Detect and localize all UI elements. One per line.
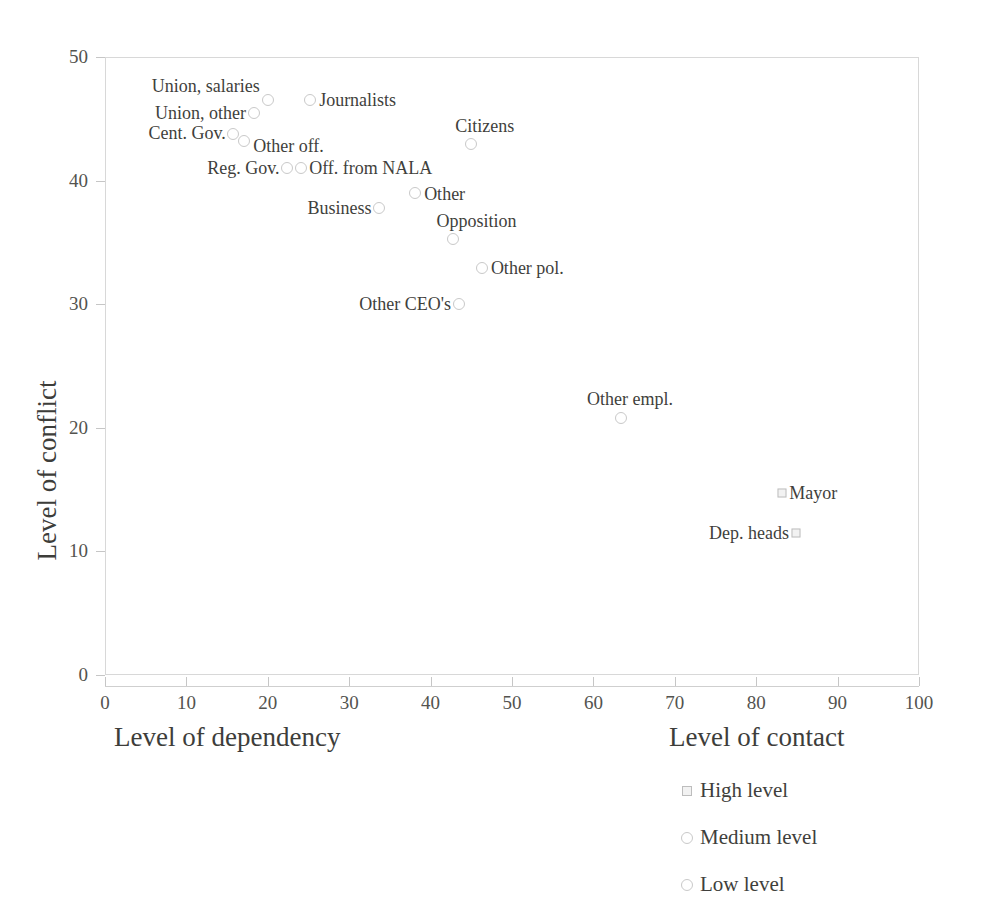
- y-tick-label: 0: [79, 664, 89, 686]
- legend-item-label: Medium level: [700, 825, 817, 850]
- legend-title: Level of contact: [669, 722, 969, 753]
- data-point-label: Cent. Gov.: [148, 122, 225, 143]
- data-point-marker: [778, 489, 787, 498]
- data-point-label: Business: [307, 197, 371, 218]
- legend-marker-glyph: [681, 879, 693, 891]
- legend-item[interactable]: High level: [669, 767, 969, 814]
- x-tick-label: 100: [905, 692, 934, 714]
- x-tick-label: 10: [177, 692, 196, 714]
- data-point-label: Opposition: [436, 210, 516, 231]
- x-tick-label: 40: [421, 692, 440, 714]
- y-tick: [96, 57, 105, 58]
- x-tick: [919, 677, 920, 686]
- data-point-marker: [281, 162, 293, 174]
- y-tick-label: 20: [69, 417, 88, 439]
- legend-item[interactable]: Medium level: [669, 814, 969, 861]
- x-tick: [512, 677, 513, 686]
- y-tick: [96, 428, 105, 429]
- x-tick-label: 80: [747, 692, 766, 714]
- x-tick: [268, 677, 269, 686]
- data-point-label: Off. from NALA: [309, 158, 432, 179]
- data-point-marker: [615, 412, 627, 424]
- x-tick: [838, 677, 839, 686]
- data-point-marker: [248, 107, 260, 119]
- data-point-marker: [238, 135, 250, 147]
- x-tick-label: 30: [340, 692, 359, 714]
- data-point-marker: [373, 202, 385, 214]
- x-tick: [756, 677, 757, 686]
- data-point-label: Dep. heads: [709, 522, 789, 543]
- x-tick-label: 0: [100, 692, 110, 714]
- legend-item[interactable]: Low level: [669, 861, 969, 908]
- y-tick: [96, 181, 105, 182]
- data-point-marker: [409, 187, 421, 199]
- legend-marker-glyph: [681, 832, 693, 844]
- x-tick-label: 70: [665, 692, 684, 714]
- legend-item-label: High level: [700, 778, 788, 803]
- data-point-label: Mayor: [789, 483, 837, 504]
- y-tick-label: 30: [69, 293, 88, 315]
- x-tick-label: 50: [503, 692, 522, 714]
- data-point-label: Other CEO's: [359, 294, 451, 315]
- x-axis-title: Level of dependency: [114, 722, 340, 753]
- x-tick-label: 20: [258, 692, 277, 714]
- chart-legend: Level of contact High levelMedium levelL…: [669, 722, 969, 908]
- data-point-marker: [227, 128, 239, 140]
- x-tick: [349, 677, 350, 686]
- y-tick: [96, 675, 105, 676]
- data-point-marker: [465, 138, 477, 150]
- legend-marker-icon: [674, 781, 700, 801]
- y-tick-label: 10: [69, 540, 88, 562]
- data-point-marker: [476, 262, 488, 274]
- x-tick-label: 90: [828, 692, 847, 714]
- data-point-label: Other empl.: [587, 388, 673, 409]
- data-point-marker: [262, 94, 274, 106]
- legend-item-label: Low level: [700, 872, 785, 897]
- x-tick-label: 60: [584, 692, 603, 714]
- x-tick: [593, 677, 594, 686]
- data-point-marker: [447, 233, 459, 245]
- data-point-label: Union, salaries: [152, 76, 260, 97]
- legend-marker-glyph: [682, 786, 692, 796]
- legend-entries: High levelMedium levelLow level: [669, 767, 969, 908]
- plot-area: [105, 57, 919, 675]
- data-point-label: Other off.: [253, 136, 324, 157]
- y-tick: [96, 551, 105, 552]
- data-point-marker: [453, 298, 465, 310]
- data-point-marker: [304, 94, 316, 106]
- x-tick: [431, 677, 432, 686]
- data-point-marker: [792, 528, 801, 537]
- data-point-label: Reg. Gov.: [207, 158, 279, 179]
- x-axis-line: [105, 686, 919, 687]
- data-point-label: Citizens: [455, 115, 514, 136]
- y-tick-label: 50: [69, 46, 88, 68]
- legend-marker-icon: [674, 828, 700, 848]
- legend-marker-icon: [674, 875, 700, 895]
- x-tick: [675, 677, 676, 686]
- data-point-label: Union, other: [155, 102, 246, 123]
- y-axis-title: Level of conflict: [32, 341, 63, 601]
- y-tick: [96, 304, 105, 305]
- y-tick-label: 40: [69, 170, 88, 192]
- x-tick: [105, 677, 106, 686]
- data-point-label: Other: [424, 183, 465, 204]
- data-point-label: Journalists: [319, 90, 396, 111]
- data-point-label: Other pol.: [491, 258, 564, 279]
- x-tick: [186, 677, 187, 686]
- scatter-chart-figure: 0102030405060708090100 01020304050 Union…: [0, 0, 990, 918]
- data-point-marker: [295, 162, 307, 174]
